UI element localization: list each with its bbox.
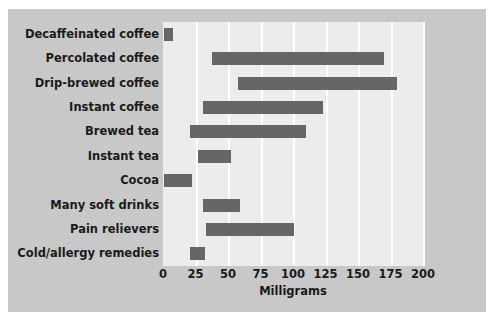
category-label: Brewed tea — [11, 125, 159, 138]
bar-pain-relievers — [206, 223, 294, 236]
x-tick-label: 175 — [378, 267, 402, 281]
x-tick-label: 200 — [411, 267, 435, 281]
bar-decaffeinated-coffee — [164, 28, 173, 41]
category-label: Cold/allergy remedies — [11, 247, 159, 260]
category-label: Instant tea — [11, 150, 159, 163]
bar-instant-coffee — [203, 101, 323, 114]
plot-area — [163, 22, 423, 266]
bar-many-soft-drinks — [203, 199, 239, 212]
bar-instant-tea — [198, 150, 231, 163]
gridline — [196, 22, 198, 266]
bar-cocoa — [164, 174, 191, 187]
bar-cold-allergy-remedies — [190, 247, 204, 260]
gridline — [391, 22, 393, 266]
category-label: Drip-brewed coffee — [11, 77, 159, 90]
x-axis-title: Milligrams — [163, 284, 423, 298]
category-label: Pain relievers — [11, 223, 159, 236]
x-axis-ticks: 0255075100125150175200 — [163, 267, 423, 285]
category-label: Many soft drinks — [11, 199, 159, 212]
category-label: Decaffeinated coffee — [11, 28, 159, 41]
chart-figure: Decaffeinated coffeePercolated coffeeDri… — [0, 0, 496, 324]
x-tick-label: 25 — [187, 267, 203, 281]
x-tick-label: 100 — [281, 267, 305, 281]
x-tick-label: 150 — [346, 267, 370, 281]
category-label: Cocoa — [11, 174, 159, 187]
category-labels-group: Decaffeinated coffeePercolated coffeeDri… — [8, 22, 159, 266]
bar-drip-brewed-coffee — [238, 77, 397, 90]
gridline — [423, 22, 425, 266]
x-tick-label: 125 — [313, 267, 337, 281]
x-tick-label: 50 — [220, 267, 236, 281]
bar-percolated-coffee — [212, 52, 384, 65]
bar-brewed-tea — [190, 125, 306, 138]
chart-card: Decaffeinated coffeePercolated coffeeDri… — [8, 9, 486, 312]
x-tick-label: 0 — [159, 267, 167, 281]
category-label: Percolated coffee — [11, 52, 159, 65]
x-tick-label: 75 — [252, 267, 268, 281]
category-label: Instant coffee — [11, 101, 159, 114]
